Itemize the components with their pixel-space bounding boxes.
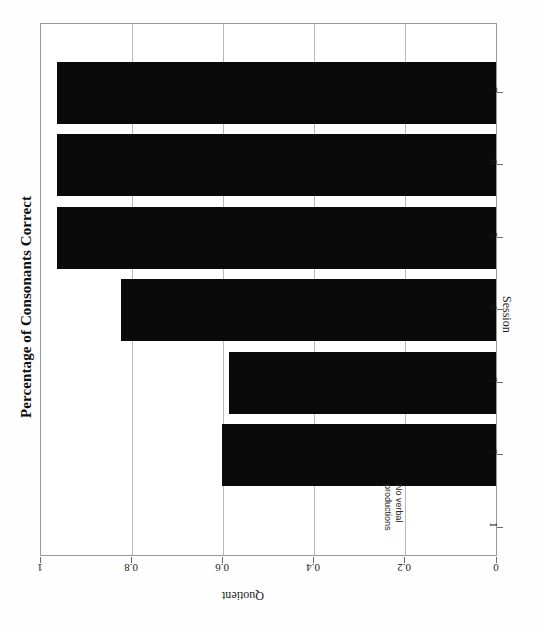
tick-label-quotient-0.4: 0.4 [300,562,326,574]
tick-label-quotient-0.2: 0.2 [391,562,417,574]
annotation-line-1: No verbal [393,484,404,531]
annotation-no-verbal-productions: No verbal productions [382,484,404,531]
tick-label-quotient-0.6: 0.6 [209,562,235,574]
tick-label-session-6: 6 [488,159,500,165]
bar-session-7 [57,62,496,124]
tick-label-session-5: 5 [488,232,500,238]
annotation-line-2: productions [382,484,393,531]
tick-label-session-1: 1 [488,522,500,528]
tick-label-quotient-0.8: 0.8 [118,562,144,574]
plot-area [40,23,497,556]
chart-figure: Percentage of Consonants Correct No verb… [0,0,541,628]
axis-title-quotient: Quotient [222,588,264,603]
bar-session-2 [222,424,496,486]
tick-label-session-2: 2 [488,449,500,455]
tick-label-quotient-0: 0 [483,562,509,574]
bar-session-5 [57,207,496,269]
bar-session-4 [121,279,496,341]
tick-label-session-7: 7 [488,87,500,93]
bar-session-6 [57,134,496,196]
chart-title: Percentage of Consonants Correct [18,196,35,418]
bar-session-3 [229,352,496,414]
tick-label-session-3: 3 [488,377,500,383]
tick-label-quotient-1: 1 [27,562,53,574]
axis-title-session: Session [499,296,514,333]
